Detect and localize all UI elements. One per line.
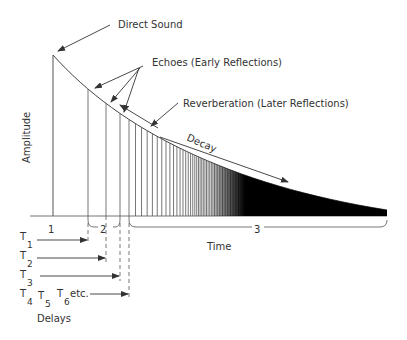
delay-t4: T4 <box>19 288 33 307</box>
delay-t1: T1 <box>19 231 33 250</box>
echo-arrow-3 <box>124 68 139 112</box>
region-3-label: 3 <box>254 224 260 235</box>
reverb-arrow-2 <box>120 105 158 128</box>
reverb-tail-fill <box>245 100 387 216</box>
direct-sound-label: Direct Sound <box>118 19 183 30</box>
region-1-label: 1 <box>48 224 54 235</box>
decay-label: Decay <box>185 132 218 155</box>
amplitude-label: Amplitude <box>21 112 32 163</box>
time-label: Time <box>206 241 231 252</box>
region-2-label: 2 <box>100 224 106 235</box>
reverb-tail-gradient <box>210 100 245 216</box>
delay-t5: T5 <box>37 290 51 309</box>
delay-etc: etc. <box>70 288 89 299</box>
direct-sound-arrow <box>58 25 110 51</box>
delay-t6: T6 <box>56 288 70 307</box>
delays-title: Delays <box>37 313 71 324</box>
delay-t3: T3 <box>19 269 33 288</box>
reverberation-label: Reverberation (Later Reflections) <box>183 98 349 109</box>
echo-arrow-2 <box>111 68 140 102</box>
delay-t2: T2 <box>19 250 33 269</box>
echoes-label: Echoes (Early Reflections) <box>152 57 282 68</box>
reflection-diagram: Direct Sound Echoes (Early Reflections) … <box>0 0 407 340</box>
reverb-arrow-1 <box>151 103 178 126</box>
